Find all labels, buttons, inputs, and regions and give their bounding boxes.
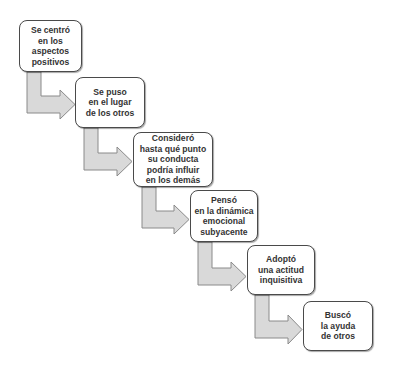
step-box-sought-help: Buscó la ayuda de otros [303,301,373,351]
step-box-put-in-others-place: Se puso en el lugar de los otros [75,77,145,128]
bent-arrow-icon-4 [198,242,246,291]
bent-arrow-icon-2 [84,128,132,176]
bent-arrow-icon-5 [255,295,302,344]
bent-arrow-icon-1 [27,72,75,119]
bent-arrow-icon-3 [142,187,189,234]
step-box-considered-conduct-influence: Consideró hasta qué punto su conducta po… [133,132,213,187]
step-box-focused-on-positives: Se centró en los aspectos positivos [19,20,82,72]
step-box-inquisitive-attitude: Adoptó una actitud inquisitiva [247,245,315,295]
step-box-emotional-dynamics: Pensó en la dinámica emocional subyacent… [190,190,258,242]
